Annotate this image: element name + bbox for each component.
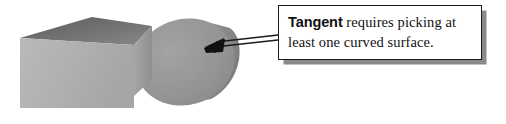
callout-box: Tangent requires picking at least one cu… — [278, 5, 482, 60]
block-front-face — [20, 38, 134, 108]
rectangular-block-shape — [20, 17, 152, 108]
callout-text: Tangent requires picking at least one cu… — [288, 12, 475, 52]
figure-illustration: Tangent requires picking at least one cu… — [0, 0, 506, 124]
callout-term: Tangent — [288, 14, 343, 30]
